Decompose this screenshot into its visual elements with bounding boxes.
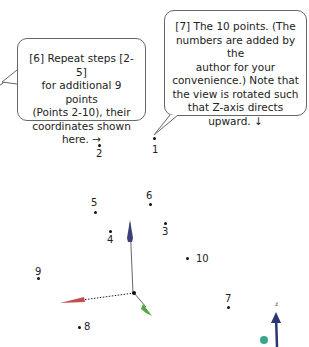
- widget-z-arrow-icon[interactable]: [271, 312, 281, 323]
- point-5-label: 5: [91, 197, 97, 208]
- viewport-3d[interactable]: z: [0, 0, 309, 347]
- callout6-tail-shape: [2, 70, 17, 84]
- widget-z-label: z: [275, 300, 278, 307]
- point-10-marker[interactable]: [186, 257, 189, 260]
- point-10-label: 10: [196, 253, 209, 264]
- point-1-marker[interactable]: [153, 137, 156, 140]
- x-axis-arrow-icon: [60, 297, 85, 303]
- point-9-label: 9: [35, 266, 41, 277]
- point-4-marker[interactable]: [109, 230, 112, 233]
- point-7-marker[interactable]: [227, 306, 230, 309]
- point-8-marker[interactable]: [78, 326, 81, 329]
- z-axis-arrow-icon: [127, 220, 133, 242]
- point-6-label: 6: [146, 190, 152, 201]
- callout7-tail: [154, 115, 178, 135]
- point-8-label: 8: [84, 321, 90, 332]
- x-axis-line: [82, 293, 134, 300]
- y-axis-line: [134, 293, 146, 307]
- point-1-label: 1: [152, 144, 158, 155]
- point-7-label: 7: [225, 293, 231, 304]
- origin-point: [132, 291, 136, 295]
- point-3-marker[interactable]: [164, 222, 167, 225]
- point-3-label: 3: [162, 226, 168, 237]
- point-2-marker[interactable]: [98, 144, 101, 147]
- point-4-label: 4: [107, 234, 113, 245]
- y-axis-arrow-icon: [141, 304, 152, 316]
- point-5-marker[interactable]: [94, 211, 97, 214]
- point-9-marker[interactable]: [37, 277, 40, 280]
- point-2-label: 2: [96, 148, 102, 159]
- widget-sphere-icon[interactable]: [260, 336, 268, 344]
- point-6-marker[interactable]: [149, 203, 152, 206]
